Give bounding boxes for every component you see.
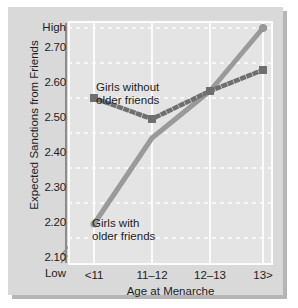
x-tick-over-13: 13> bbox=[233, 269, 293, 281]
annotation-line-1: Girls with bbox=[92, 217, 155, 230]
x-tick-12-13: 12–13 bbox=[180, 269, 240, 281]
x-tick-under-11: <11 bbox=[64, 269, 124, 281]
y-tick-2.10: 2.10 bbox=[12, 252, 66, 263]
y-tick-2.70: 2.70 bbox=[12, 42, 66, 53]
y-tick-2.40: 2.40 bbox=[12, 147, 66, 158]
y-tick-2.20: 2.20 bbox=[12, 217, 66, 228]
annotation-girls-without-older-friends: Girls without older friends bbox=[96, 81, 159, 106]
series-girls-with-older-friends bbox=[90, 24, 266, 227]
x-axis-title: Age at Menarche bbox=[68, 285, 273, 297]
y-tick-2.50: 2.50 bbox=[12, 112, 66, 123]
annotation-line-2: older friends bbox=[96, 94, 159, 107]
annotation-girls-with-older-friends: Girls with older friends bbox=[92, 217, 155, 242]
y-axis-high-label: High bbox=[8, 21, 66, 33]
x-tick-11-12: 11–12 bbox=[122, 269, 182, 281]
x-axis-ticks: <11 11–12 12–13 13> bbox=[68, 269, 273, 285]
y-tick-2.30: 2.30 bbox=[12, 182, 66, 193]
y-tick-2.60: 2.60 bbox=[12, 77, 66, 88]
chart-figure: Expected Sanctions from Friends High 2.7… bbox=[8, 7, 283, 295]
plot-wrapper: Girls without older friends Girls with o… bbox=[68, 21, 273, 265]
y-axis-low-label: Low bbox=[8, 267, 66, 279]
y-axis-ticks: High 2.70 2.60 2.50 2.40 2.30 2.20 2.10 … bbox=[8, 21, 66, 265]
annotation-line-2: older friends bbox=[92, 230, 155, 243]
annotation-line-1: Girls without bbox=[96, 81, 159, 94]
